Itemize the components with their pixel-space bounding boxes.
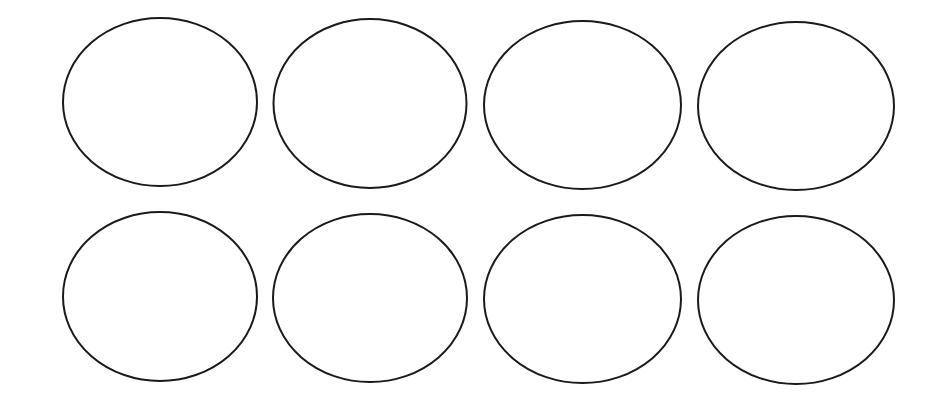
ellipse-r2-c1	[63, 212, 257, 381]
ellipse-r2-c2	[273, 214, 467, 382]
diagram-canvas	[0, 0, 944, 396]
ellipse-layer	[63, 18, 894, 384]
ellipse-grid	[0, 0, 944, 396]
ellipse-r2-c3	[484, 215, 681, 383]
ellipse-r1-c4	[698, 22, 894, 190]
ellipse-r1-c3	[484, 21, 681, 189]
ellipse-r2-c4	[698, 216, 894, 384]
ellipse-r1-c1	[63, 18, 257, 186]
ellipse-r1-c2	[274, 19, 467, 188]
